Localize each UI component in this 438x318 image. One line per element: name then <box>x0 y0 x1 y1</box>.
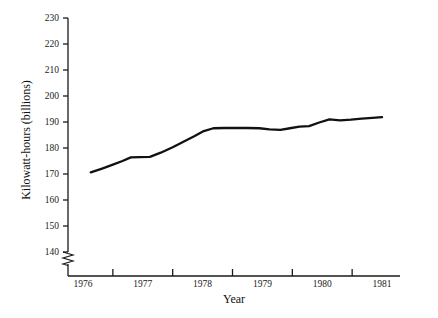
y-tick-label-180: 180 <box>45 143 60 153</box>
y-tick-label-190: 190 <box>45 117 60 127</box>
x-tick-label-1980: 1980 <box>313 279 332 289</box>
x-tick-label-1977: 1977 <box>133 279 152 289</box>
x-tick-label-1976: 1976 <box>73 279 92 289</box>
data-series-group <box>91 117 382 172</box>
y-axis-title: Kilowatt-hours (billions) <box>19 80 33 200</box>
y-tick-label-140: 140 <box>45 247 60 257</box>
x-tick-labels: 197619771978197919801981 <box>73 279 391 289</box>
y-tick-label-210: 210 <box>45 65 60 75</box>
y-tick-label-150: 150 <box>45 221 60 231</box>
axis-break-icon <box>63 252 73 266</box>
y-tick-label-220: 220 <box>45 39 60 49</box>
data-line-kilowatt-hours <box>91 117 382 172</box>
x-tick-label-1978: 1978 <box>193 279 212 289</box>
x-tick-label-1979: 1979 <box>253 279 272 289</box>
x-axis-title: Year <box>223 292 245 306</box>
line-chart: 140150160170180190200210220230 197619771… <box>0 0 438 318</box>
x-axis: 197619771978197919801981 <box>68 269 400 289</box>
chart-container: 140150160170180190200210220230 197619771… <box>0 0 438 318</box>
y-tick-label-230: 230 <box>45 13 60 23</box>
x-tick-marks <box>113 269 352 276</box>
y-tick-label-160: 160 <box>45 195 60 205</box>
y-tick-label-170: 170 <box>45 169 60 179</box>
y-axis: 140150160170180190200210220230 <box>45 13 73 276</box>
x-tick-label-1981: 1981 <box>373 279 392 289</box>
y-tick-marks <box>63 18 68 252</box>
y-tick-labels: 140150160170180190200210220230 <box>45 13 60 257</box>
y-tick-label-200: 200 <box>45 91 60 101</box>
